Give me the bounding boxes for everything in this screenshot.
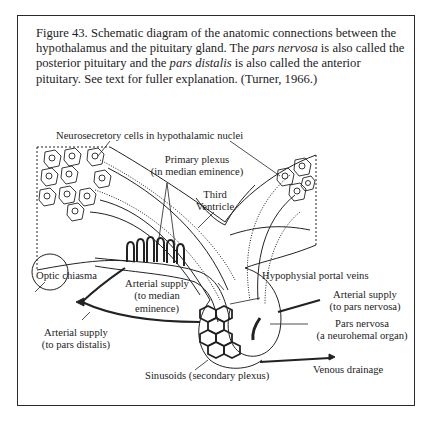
label-pars-nervosa: Pars nervosa (a neurohemal organ)	[310, 318, 414, 343]
label-venous-drainage: Venous drainage	[313, 364, 383, 376]
label-arterial-supply-median-eminence: Arterial supply (to median eminence)	[112, 278, 202, 315]
label-neurosecretory-cells: Neurosecretory cells in hypothalamic nuc…	[56, 130, 243, 142]
label-arterial-supply-pars-nervosa: Arterial supply (to pars nervosa)	[321, 289, 409, 314]
label-arterial-supply-pars-distalis: Arterial supply (to pars distalis)	[30, 327, 122, 352]
label-hypophysial-portal-veins: Hypophysial portal veins	[262, 270, 369, 282]
label-third-ventricle: Third Ventricle	[190, 189, 240, 214]
label-sinusoids: Sinusoids (secondary plexus)	[145, 370, 269, 382]
label-primary-plexus: Primary plexus (in median eminence)	[142, 154, 252, 179]
label-optic-chiasma: Optic chiasma	[36, 270, 97, 282]
